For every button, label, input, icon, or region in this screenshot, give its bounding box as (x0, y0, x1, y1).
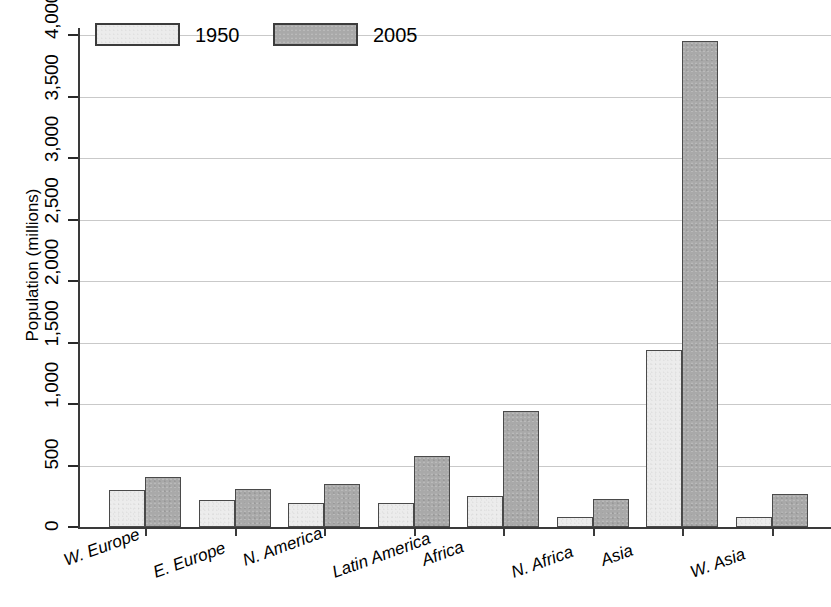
bar-w-europe-1950[interactable] (109, 490, 145, 528)
legend-label: 1950 (195, 22, 240, 48)
bar-africa-2005[interactable] (503, 411, 539, 527)
x-tick-mark (503, 529, 505, 536)
bar-n-america-2005[interactable] (324, 484, 360, 527)
x-tick-mark (593, 529, 595, 536)
bar-asia-1950[interactable] (646, 350, 682, 527)
bar-asia-2005[interactable] (682, 41, 718, 527)
x-tick-mark (772, 529, 774, 536)
bar-latin-america-1950[interactable] (378, 503, 414, 527)
x-tick-mark (682, 529, 684, 536)
plot-area (0, 0, 831, 607)
bar-e-europe-2005[interactable] (235, 489, 271, 527)
x-tick-mark (235, 529, 237, 536)
population-bar-chart: Population (millions) 05001,0001,5002,00… (0, 0, 831, 607)
bar-w-asia-2005[interactable] (772, 494, 808, 527)
bar-n-africa-2005[interactable] (593, 499, 629, 527)
x-tick-mark (324, 529, 326, 536)
bar-n-africa-1950[interactable] (557, 517, 593, 527)
bar-latin-america-2005[interactable] (414, 456, 450, 527)
legend-swatch-1950 (95, 23, 180, 46)
legend-swatch-2005 (273, 23, 358, 46)
bar-africa-1950[interactable] (467, 496, 503, 527)
bar-w-asia-1950[interactable] (736, 517, 772, 527)
legend-label: 2005 (373, 22, 418, 48)
bar-w-europe-2005[interactable] (145, 477, 181, 527)
bar-e-europe-1950[interactable] (199, 500, 235, 527)
x-tick-mark (145, 529, 147, 536)
